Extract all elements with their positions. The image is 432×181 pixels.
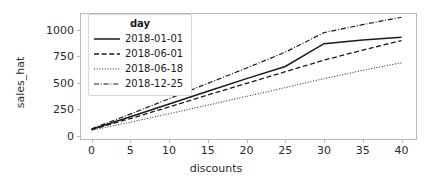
legend-title: day (94, 18, 186, 30)
x-tick-label: 25 (278, 144, 292, 157)
x-tick-label: 40 (395, 144, 409, 157)
legend-line-swatch (94, 64, 120, 74)
x-tick-mark (208, 140, 209, 143)
x-tick-label: 20 (240, 144, 254, 157)
y-tick-label: 250 (30, 103, 74, 116)
x-tick-mark (324, 140, 325, 143)
legend-line-swatch (94, 49, 120, 59)
legend-item: 2018-06-01 (94, 46, 186, 61)
x-tick-mark (285, 140, 286, 143)
y-axis-label: sales_hat (14, 43, 27, 123)
y-tick-label: 500 (30, 76, 74, 89)
y-tick-label: 0 (30, 129, 74, 142)
y-tick-label: 1000 (30, 23, 74, 36)
x-tick-label: 35 (356, 144, 370, 157)
x-tick-label: 10 (162, 144, 176, 157)
x-tick-mark (402, 140, 403, 143)
legend-line-swatch (94, 34, 120, 44)
x-tick-label: 0 (88, 144, 95, 157)
x-tick-mark (92, 140, 93, 143)
legend-line-swatch (94, 79, 120, 89)
legend: day 2018-01-012018-06-012018-06-182018-1… (88, 14, 192, 96)
x-axis-label: discounts (0, 162, 432, 175)
legend-entries: 2018-01-012018-06-012018-06-182018-12-25 (94, 31, 186, 91)
x-tick-mark (169, 140, 170, 143)
legend-item-label: 2018-06-18 (125, 63, 183, 75)
x-tick-label: 30 (317, 144, 331, 157)
legend-item-label: 2018-06-01 (125, 48, 183, 60)
x-tick-label: 5 (127, 144, 134, 157)
legend-item: 2018-12-25 (94, 76, 186, 91)
legend-item-label: 2018-01-01 (125, 33, 183, 45)
legend-item: 2018-01-01 (94, 31, 186, 46)
legend-item-label: 2018-12-25 (125, 78, 183, 90)
chart-figure: sales_hat 02505007501000 051015202530354… (0, 0, 432, 181)
x-tick-mark (247, 140, 248, 143)
x-tick-label: 15 (201, 144, 215, 157)
x-tick-mark (130, 140, 131, 143)
y-tick-label: 750 (30, 50, 74, 63)
x-tick-mark (363, 140, 364, 143)
legend-item: 2018-06-18 (94, 61, 186, 76)
